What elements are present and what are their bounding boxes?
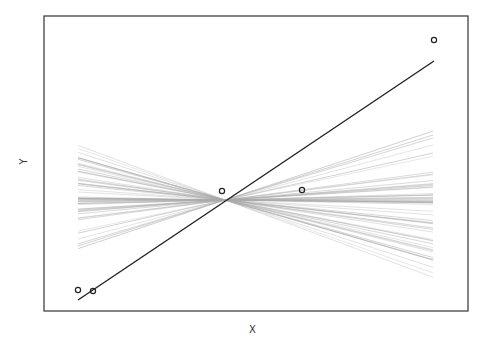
permutation-fan-lines bbox=[78, 131, 433, 277]
data-point bbox=[431, 37, 436, 42]
fan-line bbox=[78, 152, 433, 267]
fan-line bbox=[78, 179, 433, 229]
y-axis-label: Y bbox=[18, 158, 29, 164]
scatter-plot bbox=[0, 0, 487, 350]
data-point bbox=[75, 287, 80, 292]
x-axis-label: X bbox=[249, 324, 256, 335]
data-point bbox=[219, 188, 224, 193]
fan-line bbox=[78, 145, 433, 239]
